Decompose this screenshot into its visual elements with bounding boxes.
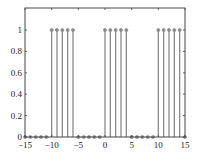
stem-series <box>23 28 186 138</box>
stem-marker <box>157 28 160 31</box>
stem-marker <box>173 28 176 31</box>
x-tick-label: 10 <box>154 140 164 150</box>
stem-marker <box>178 28 181 31</box>
stem-marker <box>55 28 58 31</box>
x-tick-label: −5 <box>74 140 84 150</box>
y-tick-label: 0.8 <box>11 46 23 56</box>
stem-marker <box>162 28 165 31</box>
stem-marker <box>71 28 74 31</box>
x-tick-label: 15 <box>181 140 191 150</box>
y-tick-label: 0 <box>18 132 23 142</box>
stem-marker <box>50 28 53 31</box>
stem-marker <box>119 28 122 31</box>
y-tick-label: 0.6 <box>11 68 23 78</box>
y-tick-label: 1 <box>18 25 23 35</box>
stem-marker <box>61 28 64 31</box>
stem-marker <box>66 28 69 31</box>
y-tick-label: 0.2 <box>11 111 22 121</box>
stem-marker <box>114 28 117 31</box>
stem-marker <box>103 28 106 31</box>
y-tick-label: 0.4 <box>11 89 23 99</box>
x-tick-label: 5 <box>129 140 134 150</box>
stem-marker <box>109 28 112 31</box>
stem-marker <box>167 28 170 31</box>
x-tick-label: −10 <box>45 140 60 150</box>
stem-chart: −15−10−5051015 00.20.40.60.81 <box>0 0 206 160</box>
x-tick-label: 0 <box>103 140 108 150</box>
stem-marker <box>125 28 128 31</box>
